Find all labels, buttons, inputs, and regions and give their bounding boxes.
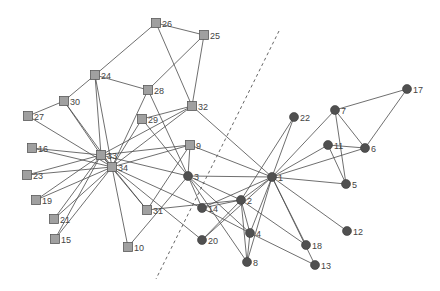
square-node-icon (200, 31, 209, 40)
square-node-icon (60, 97, 69, 106)
node-34: 34 (108, 163, 129, 173)
square-node-icon (186, 141, 195, 150)
edge-31-34 (112, 167, 147, 210)
node-label: 8 (253, 258, 258, 268)
square-node-icon (91, 71, 100, 80)
square-node-icon (50, 215, 59, 224)
circle-node-icon (243, 258, 252, 267)
node-5: 5 (342, 180, 358, 190)
square-node-icon (124, 243, 133, 252)
square-node-icon (152, 19, 161, 28)
circle-node-icon (290, 113, 299, 122)
node-6: 6 (361, 144, 377, 154)
edge-10-34 (112, 167, 128, 247)
edge-1-3 (188, 176, 272, 177)
node-27: 27 (24, 112, 45, 122)
node-8: 8 (243, 258, 259, 268)
node-label: 17 (413, 85, 423, 95)
edge-24-33 (95, 75, 101, 155)
edge-28-34 (112, 90, 148, 167)
node-label: 28 (154, 86, 164, 96)
node-label: 13 (321, 261, 331, 271)
node-label: 10 (134, 243, 144, 253)
node-label: 24 (101, 71, 111, 81)
node-label: 32 (198, 102, 208, 112)
node-12: 12 (343, 227, 364, 237)
node-label: 9 (196, 141, 201, 151)
node-label: 5 (352, 180, 357, 190)
circle-node-icon (331, 106, 340, 115)
node-13: 13 (311, 261, 332, 271)
node-label: 11 (334, 141, 343, 151)
node-label: 7 (341, 106, 346, 116)
node-17: 17 (403, 85, 424, 95)
edge-3-8 (188, 176, 247, 262)
edge-15-34 (55, 167, 112, 239)
node-24: 24 (91, 71, 112, 81)
node-label: 26 (162, 19, 172, 29)
node-label: 27 (34, 112, 44, 122)
square-node-icon (108, 163, 117, 172)
node-label: 19 (42, 196, 52, 206)
node-23: 23 (23, 171, 44, 181)
edge-24-26 (95, 23, 156, 75)
node-4: 4 (246, 229, 262, 239)
node-16: 16 (28, 144, 49, 154)
square-node-icon (51, 235, 60, 244)
node-14: 14 (198, 204, 219, 214)
node-3: 3 (184, 172, 200, 182)
node-18: 18 (302, 241, 323, 251)
node-label: 31 (153, 206, 163, 216)
node-label: 34 (118, 163, 128, 173)
node-9: 9 (186, 141, 202, 151)
node-28: 28 (144, 86, 165, 96)
node-1: 1 (268, 173, 284, 183)
node-label: 15 (61, 235, 71, 245)
square-node-icon (32, 196, 41, 205)
node-30: 30 (60, 97, 81, 107)
edge-1-8 (247, 177, 272, 262)
circle-node-icon (246, 229, 255, 238)
circle-node-icon (311, 261, 320, 270)
square-node-icon (138, 115, 147, 124)
node-label: 12 (353, 227, 363, 237)
square-node-icon (28, 144, 37, 153)
edge-21-33 (54, 155, 101, 219)
edge-6-17 (365, 89, 407, 148)
edge-21-34 (54, 167, 112, 219)
edge-32-33 (101, 106, 192, 155)
node-label: 20 (208, 236, 218, 246)
square-node-icon (143, 206, 152, 215)
node-10: 10 (124, 243, 145, 253)
node-11: 11 (324, 141, 344, 151)
circle-node-icon (403, 85, 412, 94)
node-label: 25 (210, 31, 220, 41)
circle-node-icon (324, 141, 333, 150)
square-node-icon (97, 151, 106, 160)
node-22: 22 (290, 113, 311, 123)
node-label: 33 (107, 151, 117, 161)
square-node-icon (24, 112, 33, 121)
edge-25-32 (192, 35, 204, 106)
edge-1-5 (272, 177, 346, 184)
node-label: 21 (60, 215, 70, 225)
circle-node-icon (361, 144, 370, 153)
node-21: 21 (50, 215, 71, 225)
square-node-icon (23, 171, 32, 180)
node-25: 25 (200, 31, 221, 41)
node-label: 1 (278, 173, 283, 183)
node-label: 6 (371, 144, 376, 154)
node-label: 2 (247, 196, 252, 206)
circle-node-icon (198, 236, 207, 245)
circle-node-icon (268, 173, 277, 182)
node-label: 14 (208, 204, 218, 214)
node-19: 19 (32, 196, 53, 206)
edge-1-12 (272, 177, 347, 231)
node-label: 23 (33, 171, 43, 181)
node-15: 15 (51, 235, 72, 245)
node-33: 33 (97, 151, 118, 161)
node-29: 29 (138, 115, 159, 125)
edge-1-32 (192, 106, 272, 177)
circle-node-icon (343, 227, 352, 236)
node-label: 16 (38, 144, 48, 154)
